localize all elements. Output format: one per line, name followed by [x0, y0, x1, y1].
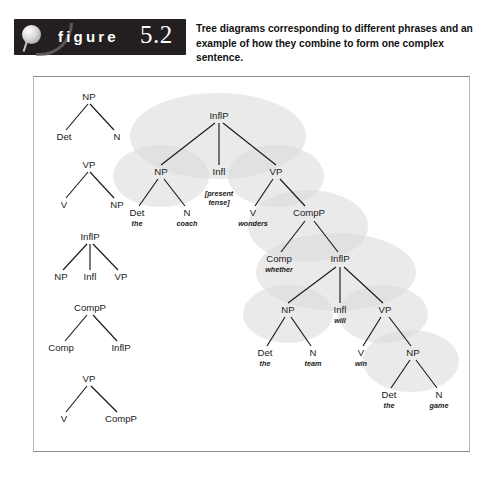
node-label: Comp — [48, 342, 74, 353]
left-tree-np: NP Det N — [57, 91, 121, 142]
branch — [65, 315, 87, 341]
node-label: NP — [110, 199, 123, 210]
branch — [66, 172, 88, 198]
node-label: Infl — [213, 166, 226, 177]
left-tree-vp-compp: VP V CompP — [61, 373, 137, 424]
left-tree-inflp: InflP NP Infl VP — [54, 231, 127, 282]
lightbulb-stem-icon — [23, 41, 28, 52]
node-label: VP — [83, 373, 96, 384]
node-label: InflP — [330, 253, 349, 264]
terminal-word: the — [384, 401, 395, 410]
node-label: CompP — [293, 207, 325, 218]
node-label: Infl — [84, 271, 97, 282]
node-label: N — [310, 347, 317, 358]
node-label: VP — [83, 159, 96, 170]
node-label: VP — [270, 166, 283, 177]
node-label: N — [114, 131, 121, 142]
branch — [93, 244, 118, 270]
node-label: InflP — [80, 231, 99, 242]
tree-diagram-canvas: NP Det N VP V NP InflP NP Infl VP CompP — [33, 76, 470, 452]
node-label: NP — [406, 347, 419, 358]
branch — [66, 386, 87, 412]
node-label: NP — [154, 166, 167, 177]
terminal-word: [present — [204, 189, 234, 198]
branch — [63, 244, 87, 270]
node-label: CompP — [105, 413, 137, 424]
branch — [93, 315, 117, 341]
terminal-word: coach — [177, 219, 198, 228]
terminal-word: team — [305, 359, 322, 368]
node-label: NP — [54, 271, 67, 282]
figure-word: figure — [58, 28, 119, 45]
branch — [90, 172, 114, 198]
terminal-word: game — [429, 401, 449, 410]
node-label: V — [61, 199, 68, 210]
node-label: Det — [130, 207, 145, 218]
figure-caption: Tree diagrams corresponding to different… — [196, 22, 486, 66]
node-label: InflP — [209, 110, 228, 121]
branch — [90, 104, 114, 130]
node-label: NP — [82, 91, 95, 102]
node-label: N — [436, 389, 443, 400]
node-label: V — [358, 347, 365, 358]
terminal-word: the — [260, 359, 271, 368]
left-tree-compp: CompP Comp InflP — [48, 302, 130, 353]
node-label: CompP — [74, 302, 106, 313]
node-label: InflP — [111, 342, 130, 353]
node-label: V — [250, 207, 257, 218]
terminal-word: the — [132, 219, 143, 228]
node-label: NP — [281, 304, 294, 315]
node-label: Infl — [334, 304, 347, 315]
node-label: V — [61, 413, 68, 424]
blob-np3 — [363, 330, 459, 392]
figure-page: figure 5.2 Tree diagrams corresponding t… — [0, 0, 502, 487]
node-label: N — [184, 207, 191, 218]
terminal-word: win — [355, 359, 368, 368]
node-label: VP — [379, 304, 392, 315]
terminal-word: whether — [265, 265, 294, 274]
branch — [66, 104, 88, 130]
terminal-word: wonders — [238, 219, 268, 228]
terminal-word: tense] — [208, 198, 230, 207]
left-tree-vp: VP V NP — [61, 159, 124, 210]
node-label: Det — [382, 389, 397, 400]
figure-banner: figure 5.2 — [14, 19, 186, 55]
node-label: VP — [115, 271, 128, 282]
branch — [91, 386, 117, 412]
figure-number: 5.2 — [140, 21, 173, 49]
node-label: Det — [57, 131, 72, 142]
terminal-word: will — [334, 316, 347, 325]
node-label: Det — [258, 347, 273, 358]
node-label: Comp — [266, 253, 292, 264]
